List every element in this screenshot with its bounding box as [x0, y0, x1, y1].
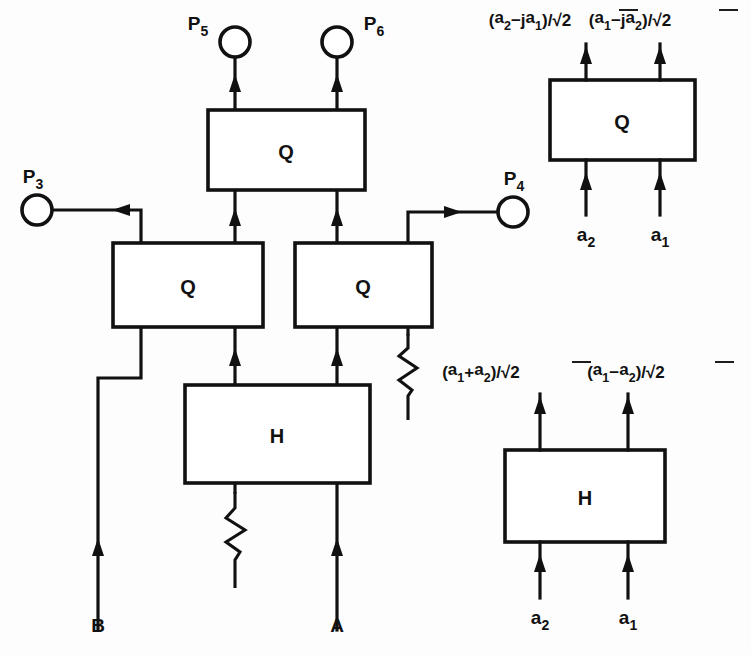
- port-p4-label: P4: [504, 168, 525, 194]
- legend-h-coupler: H (a1+a2)/√2 (a1−a2)/√2 a2 a1: [442, 360, 734, 633]
- arrowhead-p6: [331, 74, 343, 92]
- termination-h-icon: [226, 492, 245, 588]
- port-p6-label: P6: [364, 13, 385, 39]
- legend-h-arrowhead-out-right: [622, 396, 634, 414]
- legend-q-output-left-expression: (a2−ja1)/√2: [489, 8, 571, 33]
- legend-q-arrowhead-out-left: [580, 46, 592, 64]
- arrowhead-p4: [444, 206, 462, 218]
- main-network-blocks: Q Q Q H: [113, 110, 432, 483]
- port-p6-circle[interactable]: [322, 27, 352, 57]
- arrowhead-input-a: [331, 538, 343, 556]
- port-p5-label: P5: [188, 13, 209, 39]
- main-input-labels: B A: [91, 615, 344, 636]
- legend-q-input-right-label: a1: [651, 224, 670, 250]
- legend-h-input-right-label: a1: [619, 607, 638, 633]
- legend-h-output-left-expression: (a1+a2)/√2: [442, 360, 520, 385]
- block-q-left-label: Q: [180, 276, 196, 298]
- arrowhead-h-to-qright: [331, 348, 343, 366]
- block-diagram-svg: Q Q Q H P3 P4 P5 P6 B A Q: [0, 0, 751, 655]
- port-p4-circle[interactable]: [498, 197, 528, 227]
- block-q-top-label: Q: [278, 141, 294, 163]
- input-a-label: A: [330, 615, 344, 636]
- legend-q-arrowhead-out-right: [654, 46, 666, 64]
- arrowhead-p5: [229, 74, 241, 92]
- legend-q-output-right-expression: (a1−ja2)/√2: [589, 8, 671, 33]
- port-p3-circle[interactable]: [22, 195, 52, 225]
- block-h-main-label: H: [270, 425, 284, 447]
- port-p5-circle[interactable]: [220, 27, 250, 57]
- arrowhead-qright-to-qtop: [331, 208, 343, 226]
- legend-h-arrowhead-out-left: [534, 396, 546, 414]
- legend-h-input-left-label: a2: [531, 607, 550, 633]
- arrowhead-h-to-qleft: [229, 348, 241, 366]
- port-p3-label: P3: [23, 166, 44, 192]
- termination-right-q-icon: [399, 334, 417, 420]
- arrowhead-qleft-to-qtop: [229, 208, 241, 226]
- legend-h-arrowhead-in-right: [622, 554, 634, 572]
- legend-h-output-right-expression: (a1−a2)/√2: [587, 360, 665, 385]
- legend-q-arrowhead-in-left: [580, 172, 592, 190]
- block-q-right-label: Q: [355, 276, 371, 298]
- wire-input-b: [98, 327, 141, 630]
- diagram-canvas: Q Q Q H P3 P4 P5 P6 B A Q: [0, 0, 751, 655]
- input-b-label: B: [91, 615, 105, 636]
- legend-q-block-label: Q: [614, 111, 630, 133]
- legend-q-input-left-label: a2: [577, 224, 596, 250]
- legend-q-arrowhead-in-right: [654, 172, 666, 190]
- wire-qright-to-p4: [408, 212, 498, 243]
- arrowhead-p3: [112, 204, 130, 216]
- legend-h-arrowhead-in-left: [534, 554, 546, 572]
- arrowhead-input-b: [92, 538, 104, 556]
- legend-h-block-label: H: [578, 487, 592, 509]
